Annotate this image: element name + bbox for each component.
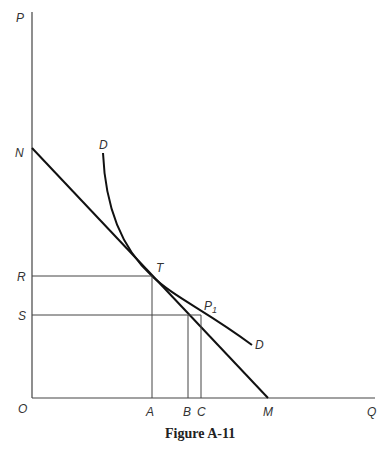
label-o: O <box>18 402 27 416</box>
label-m: M <box>263 405 273 419</box>
figure-a-11: P N R S O A B C M Q T P1 D D Figure A-11 <box>0 0 392 454</box>
label-b: B <box>183 405 191 419</box>
label-p1: P1 <box>204 299 217 315</box>
demand-curve <box>103 153 252 345</box>
label-c: C <box>197 405 206 419</box>
label-s: S <box>18 309 26 323</box>
label-q: Q <box>367 405 376 419</box>
label-d-top: D <box>99 138 108 152</box>
figure-caption: Figure A-11 <box>165 426 235 441</box>
label-r: R <box>17 270 26 284</box>
label-d-bottom: D <box>255 338 264 352</box>
label-a: A <box>145 405 154 419</box>
label-p: P <box>16 11 24 25</box>
label-n: N <box>15 146 24 160</box>
label-t: T <box>156 261 165 275</box>
